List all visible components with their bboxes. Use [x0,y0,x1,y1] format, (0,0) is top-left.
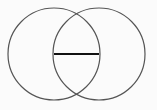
diagram-canvas [0,0,157,110]
